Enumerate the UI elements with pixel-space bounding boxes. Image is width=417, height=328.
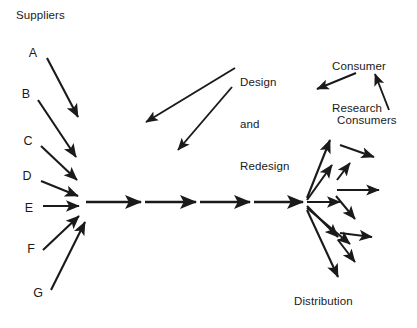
design-label-line-2: and [240, 116, 289, 134]
supplier-arrows-group [38, 58, 85, 290]
supplier-arrow-g [51, 222, 85, 290]
distribution-label: Distribution [294, 295, 353, 307]
consumers-label: Consumers [337, 114, 397, 126]
distribution-secondary-arrow-5 [340, 233, 372, 237]
design-feedback-lower-arrow [178, 87, 232, 150]
distribution-arrow-2 [307, 165, 332, 200]
supplier-label-c: C [23, 134, 32, 148]
distribution-secondary-arrow-6 [338, 240, 355, 262]
supplier-label-a: A [29, 46, 38, 60]
distribution-arrows-group [307, 140, 350, 277]
supplier-label-e: E [25, 201, 33, 215]
design-feedback-upper-arrow [146, 68, 235, 122]
distribution-secondary-arrow-4 [336, 196, 355, 219]
suppliers-heading-label: Suppliers [16, 9, 65, 21]
design-label-line-1: Design [240, 74, 289, 92]
design-label-line-3: Redesign [240, 158, 289, 176]
supplier-label-d: D [22, 169, 31, 183]
distribution-arrow-1 [307, 140, 330, 198]
distribution-secondary-arrows-group [336, 145, 379, 262]
supplier-arrow-d [41, 181, 78, 196]
supplier-label-b: B [22, 87, 30, 101]
supplier-labels-group: ABCDEFG [22, 46, 43, 300]
distribution-secondary-arrow-3 [337, 163, 350, 180]
distribution-secondary-arrow-1 [340, 145, 374, 157]
design-and-redesign-label: Design and Redesign [240, 50, 289, 200]
consumer-research-line-1: Consumer [332, 58, 386, 76]
supplier-label-g: G [33, 286, 43, 300]
diagram-canvas: ABCDEFG Suppliers Design and Redesign Co… [0, 0, 417, 328]
supplier-arrow-a [47, 58, 78, 117]
supplier-label-f: F [27, 242, 35, 256]
